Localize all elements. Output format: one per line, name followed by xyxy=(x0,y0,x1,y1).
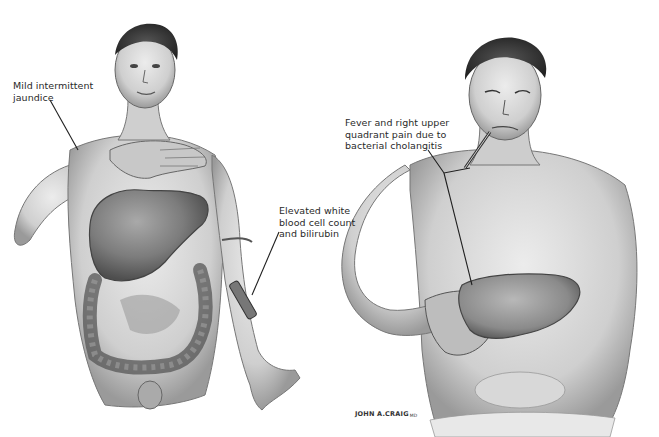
artist-signature: JOHN A.CRAIGMD xyxy=(355,410,417,418)
leader-line-wbc xyxy=(252,232,279,295)
left-figure-arm-left xyxy=(212,155,300,410)
label-fever-ruq-pain-cholangitis: Fever and right upper quadrant pain due … xyxy=(345,117,475,152)
signature-suffix: MD xyxy=(410,413,418,418)
right-figure xyxy=(342,38,637,437)
label-mild-intermittent-jaundice: Mild intermittent jaundice xyxy=(13,80,123,103)
leader-line-jaundice xyxy=(50,100,78,150)
signature-name: JOHN A.CRAIG xyxy=(355,410,409,418)
label-elevated-wbc-bilirubin: Elevated white blood cell count and bili… xyxy=(279,205,379,240)
illustration-canvas: Mild intermittent jaundice Elevated whit… xyxy=(0,0,659,437)
